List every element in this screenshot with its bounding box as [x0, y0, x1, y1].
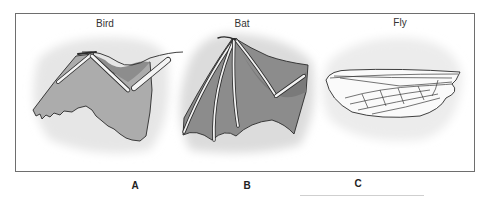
panel-letter-c: C	[354, 178, 361, 189]
panel-letter-b: B	[243, 180, 250, 191]
fly-wing-icon	[323, 38, 463, 141]
bat-wing-icon	[180, 34, 314, 154]
panel-letter-a: A	[131, 180, 138, 191]
panel-title-fly: Fly	[393, 17, 406, 28]
bird-wing-icon	[33, 38, 183, 154]
panel-title-bird: Bird	[96, 18, 114, 29]
bottom-divider	[300, 195, 424, 196]
wings-illustration	[0, 0, 488, 199]
panel-title-bat: Bat	[234, 18, 249, 29]
